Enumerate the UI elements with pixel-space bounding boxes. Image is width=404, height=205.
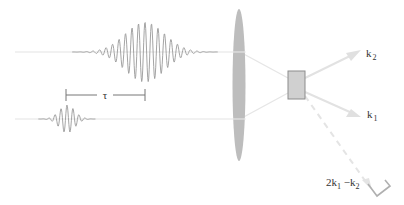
optics-diagram: τ k2 k1 2k1 −k2: [0, 0, 404, 205]
beam-k1-focus: [240, 93, 288, 119]
detector-icon: [368, 180, 390, 196]
signal-beam-dashed: [305, 96, 372, 190]
nonlinear-crystal: [288, 71, 305, 99]
output-beam-k2: [305, 50, 361, 78]
focusing-lens: [233, 9, 246, 161]
label-signal: 2k1 −k2: [326, 176, 359, 191]
label-k1: k1: [367, 108, 378, 123]
output-beam-k1: [305, 92, 361, 117]
label-k2: k2: [366, 47, 377, 62]
beam-k2-focus: [240, 52, 288, 78]
delay-bracket: τ: [66, 89, 145, 101]
delay-label: τ: [103, 89, 108, 101]
